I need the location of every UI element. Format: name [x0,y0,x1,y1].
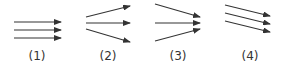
panel-3-arrows [155,4,200,41]
arrow-icon [155,4,200,17]
arrow-icon [155,29,200,41]
panel-2-arrows [86,6,130,42]
panel-label-3: (3) [158,48,198,64]
panel-label-1: (1) [17,48,57,64]
panel-1-arrows [14,22,61,38]
panel-label-2: (2) [88,48,128,64]
arrows-layer [14,4,270,42]
panel-4-arrows [225,5,270,32]
arrow-icon [86,29,130,42]
arrow-icon [86,6,130,17]
panel-label-4: (4) [230,48,270,64]
